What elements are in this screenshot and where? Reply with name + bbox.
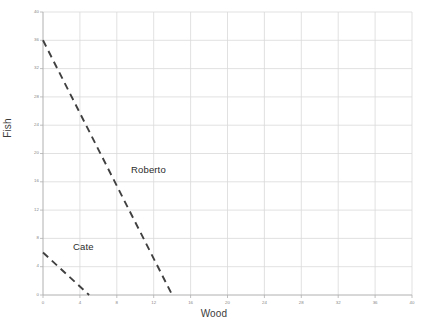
x-tick-label: 32	[328, 301, 348, 305]
axis-ticks	[40, 12, 412, 298]
x-tick-label: 20	[218, 301, 238, 305]
x-tick-label: 12	[144, 301, 164, 305]
y-tick-label: 40	[25, 10, 39, 14]
y-tick-label: 32	[25, 66, 39, 70]
chart-container: 40 36 32 28 24 20 16 12 8 4 0 0 4 8 12 1…	[0, 0, 428, 327]
x-tick-label: 4	[70, 301, 90, 305]
x-tick-label: 28	[291, 301, 311, 305]
y-tick-label: 28	[25, 95, 39, 99]
x-tick-label: 0	[33, 301, 53, 305]
series-line-cate	[43, 253, 89, 296]
y-tick-label: 16	[25, 179, 39, 183]
series-annotation-cate: Cate	[73, 241, 94, 252]
x-tick-label: 24	[254, 301, 274, 305]
x-tick-label: 36	[365, 301, 385, 305]
x-tick-label: 8	[107, 301, 127, 305]
y-axis-title: Fish	[2, 98, 13, 158]
y-tick-label: 12	[25, 208, 39, 212]
chart-plot-area	[0, 0, 428, 327]
x-axis-title: Wood	[0, 308, 428, 319]
x-tick-label: 16	[181, 301, 201, 305]
y-tick-label: 4	[25, 264, 39, 268]
y-tick-label: 8	[25, 236, 39, 240]
y-tick-label: 24	[25, 123, 39, 127]
y-tick-label: 0	[25, 293, 39, 297]
y-tick-label: 36	[25, 38, 39, 42]
series-annotation-roberto: Roberto	[131, 164, 166, 175]
y-tick-label: 20	[25, 151, 39, 155]
x-tick-label: 40	[402, 301, 422, 305]
